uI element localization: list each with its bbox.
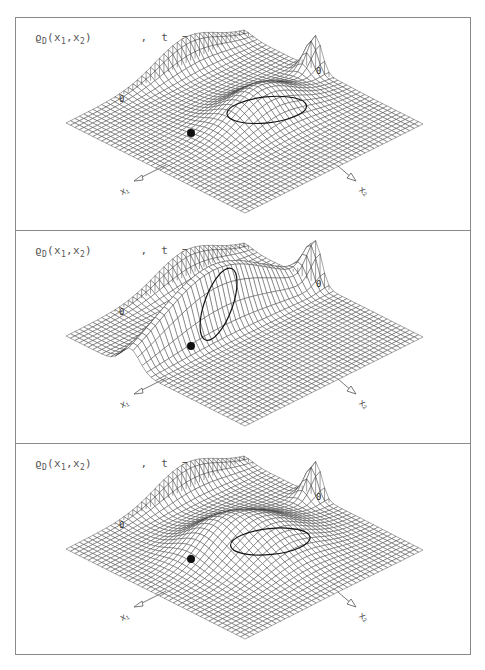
x1-axis-label: x₁ (118, 183, 131, 197)
surface-mesh (66, 241, 423, 426)
point-marker-icon (187, 342, 195, 350)
zero-marker: 0 (316, 492, 321, 502)
point-marker-icon (187, 129, 195, 137)
x2-axis-label: x₂ (357, 610, 371, 624)
zero-marker: 0 (316, 66, 321, 76)
surface-plot: 00x₁x₂ (16, 18, 470, 230)
x1-axis-label: x₁ (118, 396, 131, 410)
zero-marker: 0 (316, 279, 321, 289)
x1-axis-label: x₁ (118, 609, 131, 623)
x2-axis-label: x₂ (357, 397, 371, 411)
zero-marker: 0 (119, 307, 124, 317)
panel-2: ϱD(x1,x2) , t = t000x₁x₂ (16, 230, 470, 443)
panel-1: ϱD(x1,x2) , t = t000x₁x₂ (16, 18, 470, 230)
figure-frame: ϱD(x1,x2) , t = t000x₁x₂ ϱD(x1,x2) , t =… (15, 17, 471, 655)
zero-marker: 0 (119, 94, 124, 104)
point-marker-icon (187, 555, 195, 563)
panel-3: ϱD(x1,x2) , t = t000x₁x₂ (16, 443, 470, 656)
surface-plot: 00x₁x₂ (16, 231, 470, 443)
zero-marker: 0 (119, 520, 124, 530)
surface-plot: 00x₁x₂ (16, 444, 470, 656)
x2-axis-label: x₂ (357, 184, 371, 198)
